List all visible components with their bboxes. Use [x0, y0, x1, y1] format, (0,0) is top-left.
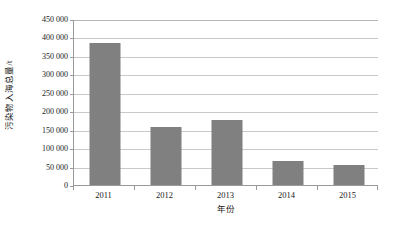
bar-slot	[196, 20, 257, 185]
y-axis-tick-label: 200 000	[42, 108, 68, 116]
y-axis-tick-label: 50 000	[46, 164, 68, 172]
y-axis-tick-label: 450 000	[42, 16, 68, 24]
y-axis-tick-mark	[70, 57, 74, 58]
x-axis-tick-mark	[377, 186, 378, 190]
bar[interactable]	[272, 161, 303, 185]
y-axis-tick-label: 100 000	[42, 145, 68, 153]
y-axis-tick-mark	[70, 112, 74, 113]
bar-slot	[135, 20, 196, 185]
y-axis-tick-labels: 450 000400 000350 000300 000250 000200 0…	[18, 14, 71, 186]
x-axis-tick-mark	[256, 186, 257, 190]
y-axis-tick-mark	[70, 149, 74, 150]
bar[interactable]	[150, 127, 181, 185]
x-axis-tick-mark	[73, 186, 74, 190]
bar-slot	[74, 20, 135, 185]
bar[interactable]	[333, 165, 364, 185]
x-axis-tick-label: 2011	[95, 191, 112, 200]
y-axis-title: 污染物入海总量/t	[0, 0, 18, 190]
y-axis-tick-mark	[70, 75, 74, 76]
x-axis-tick-mark	[195, 186, 196, 190]
plot-area	[73, 20, 378, 186]
bar[interactable]	[211, 120, 242, 185]
x-axis-tick-mark	[317, 186, 318, 190]
y-axis-tick-label: 0	[64, 182, 68, 190]
x-axis-tick-label: 2014	[278, 191, 295, 200]
x-axis-tick-labels: 20112012201320142015	[73, 191, 378, 205]
y-axis-tick-label: 150 000	[42, 127, 68, 135]
y-axis-tick-mark	[70, 168, 74, 169]
y-axis-tick-label: 350 000	[42, 53, 68, 61]
y-axis-tick-label: 300 000	[42, 71, 68, 79]
y-axis-tick-mark	[70, 20, 74, 21]
x-axis-tick-label: 2012	[156, 191, 173, 200]
x-axis-title: 年份	[73, 205, 378, 214]
y-axis-tick-label: 250 000	[42, 90, 68, 98]
x-axis-tick-label: 2015	[339, 191, 356, 200]
y-axis-tick-mark	[70, 131, 74, 132]
y-axis-tick-mark	[70, 94, 74, 95]
bars-layer	[74, 20, 378, 185]
y-axis-title-text: 污染物入海总量/t	[5, 60, 14, 130]
x-axis-tick-mark	[134, 186, 135, 190]
y-axis-tick-mark	[70, 38, 74, 39]
bar-slot	[318, 20, 379, 185]
x-axis-tick-label: 2013	[217, 191, 234, 200]
bar[interactable]	[89, 43, 120, 185]
bar-slot	[257, 20, 318, 185]
bar-chart: 污染物入海总量/t 450 000400 000350 000300 00025…	[0, 0, 406, 233]
y-axis-tick-label: 400 000	[42, 34, 68, 42]
